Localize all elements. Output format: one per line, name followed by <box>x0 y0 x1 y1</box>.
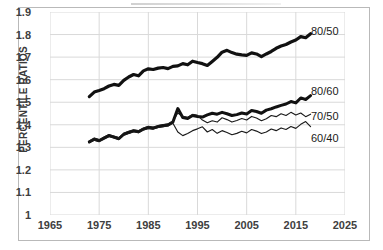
percentile-ratios-chart: PERCENTILE RATIOS 11.11.21.31.41.51.61.7… <box>0 0 383 250</box>
y-tick-label: 1.8 <box>0 29 31 41</box>
series-paths <box>89 34 310 143</box>
plot-area <box>50 12 345 215</box>
series-canvas <box>50 12 345 215</box>
y-tick-label: 1.1 <box>0 186 31 198</box>
y-tick-label: 1.5 <box>0 96 31 108</box>
scan-artifact-line <box>131 3 281 5</box>
y-tick-label: 1.4 <box>0 119 31 131</box>
y-tick-label: 1.7 <box>0 51 31 63</box>
series-label-80-60: 80/60 <box>311 85 339 97</box>
series-label-80-50: 80/50 <box>311 25 339 37</box>
series-label-60-40: 60/40 <box>311 132 339 144</box>
y-tick-label: 1.9 <box>0 6 31 18</box>
y-tick-label: 1.3 <box>0 141 31 153</box>
y-tick-label: 1.6 <box>0 74 31 86</box>
y-tick-label: 1.2 <box>0 164 31 176</box>
series-label-70-50: 70/50 <box>311 110 339 122</box>
x-tick-label: 2025 <box>315 219 375 231</box>
series-line-80-50 <box>89 34 310 97</box>
